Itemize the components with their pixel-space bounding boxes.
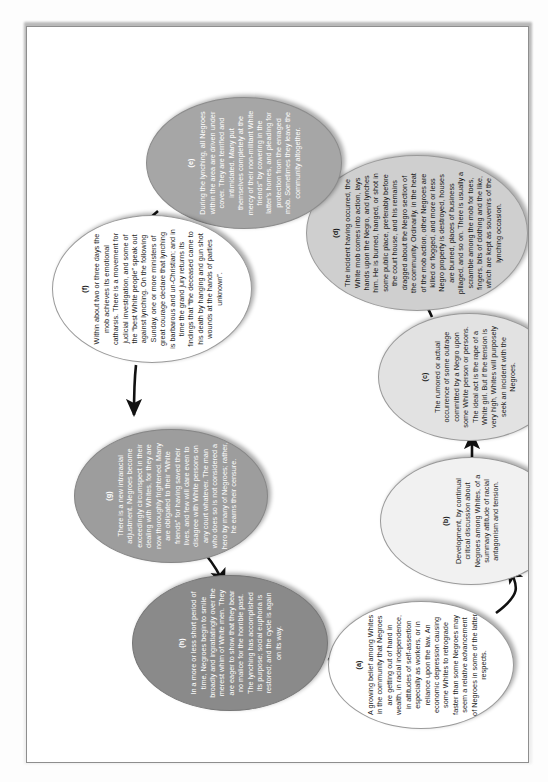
node-a-text: A growing belief among Whites in the com…	[366, 613, 488, 716]
cycle-diagram: (a) A growing belief among Whites in the…	[28, 28, 529, 763]
node-f-text: Within about two or three days the mob a…	[92, 229, 224, 349]
diagram-node-b: (b) Development, by continual critical d…	[380, 457, 529, 585]
node-e-label: (e)	[186, 110, 195, 217]
page-sheet: (a) A growing belief among Whites in the…	[26, 26, 529, 763]
node-b-label: (b)	[441, 469, 450, 572]
node-e-text: During the lynching, all Negroes within …	[198, 110, 301, 217]
edge-f-g	[134, 365, 136, 415]
diagram-node-h: (h) In a more or less short period of ti…	[132, 575, 328, 711]
diagram-node-g: (g) There is a new intraracial adjustmen…	[74, 429, 268, 563]
node-a-label: (a)	[354, 613, 363, 716]
scanned-page: (a) A growing belief among Whites in the…	[0, 0, 548, 782]
node-b-text: Development, by continual critical discu…	[454, 469, 501, 572]
node-g-text: There is a new intraracial adjustment. N…	[116, 442, 238, 550]
node-h-label: (h)	[177, 588, 186, 698]
node-h-text: In a more or less short period of time, …	[189, 588, 283, 698]
node-g-label: (g)	[104, 442, 113, 550]
diagram-node-a: (a) A growing belief among Whites in the…	[328, 601, 514, 729]
node-f-label: (f)	[80, 229, 89, 349]
diagram-node-e: (e) During the lynching, all Negroes wit…	[146, 97, 342, 229]
diagram-node-f: (f) Within about two or three days the m…	[52, 215, 252, 363]
node-c-text: The rumored or actual occurrence of some…	[433, 325, 518, 428]
node-c-label: (c)	[420, 325, 429, 428]
diagram-node-c: (c) The rumored or actual occurrence of …	[378, 313, 529, 441]
node-d-text: The incident having occurred, the White …	[343, 170, 503, 296]
